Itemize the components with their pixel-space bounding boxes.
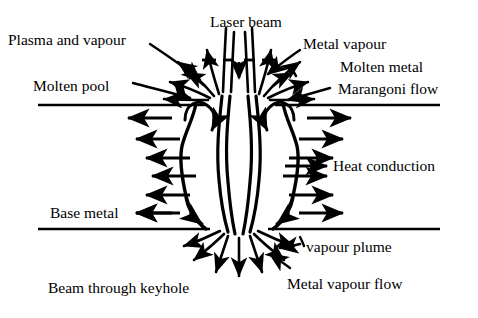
welding-schematic-diagram: Plasma and vapour Laser beam Metal vapou…: [0, 0, 478, 318]
label-metal-vapour: Metal vapour: [303, 36, 386, 52]
label-metal-vapour-flow: Metal vapour flow: [287, 276, 402, 292]
molten-pool-boundary: [181, 104, 298, 229]
label-vapour-plume: vapour plume: [306, 239, 392, 255]
label-laser-beam: Laser beam: [210, 14, 282, 30]
label-heat-conduction: Heat conduction: [333, 158, 435, 174]
label-plasma-and-vapour: Plasma and vapour: [8, 32, 126, 48]
plume-arrow-ul-4: [207, 50, 219, 94]
label-marangoni-flow: Marangoni flow: [338, 81, 438, 97]
plume-arrow-ul-3: [164, 99, 208, 100]
label-molten-metal: Molten metal: [340, 59, 423, 75]
pool-boundary-left: [181, 104, 206, 229]
lower-arrow-l-2: [194, 234, 224, 260]
keyhole-inner-right: [243, 96, 251, 234]
pool-bottom-return-flow: [186, 198, 293, 224]
plume-tick-marks: [190, 66, 296, 78]
leader-metal-vapour: [268, 50, 300, 74]
marangoni-vortices: [185, 102, 294, 130]
label-molten-pool: Molten pool: [33, 78, 109, 94]
leader-plasma-and-vapour: [150, 44, 200, 80]
keyhole-walls: [218, 96, 260, 234]
laser-ray-inner-left: [231, 32, 234, 92]
keyhole-inner-left: [227, 96, 235, 234]
laser-ray-inner-right: [245, 32, 248, 92]
label-beam-through-keyhole: Beam through keyhole: [48, 280, 189, 296]
lower-plume-fan: [184, 231, 294, 276]
label-base-metal: Base metal: [50, 205, 118, 221]
